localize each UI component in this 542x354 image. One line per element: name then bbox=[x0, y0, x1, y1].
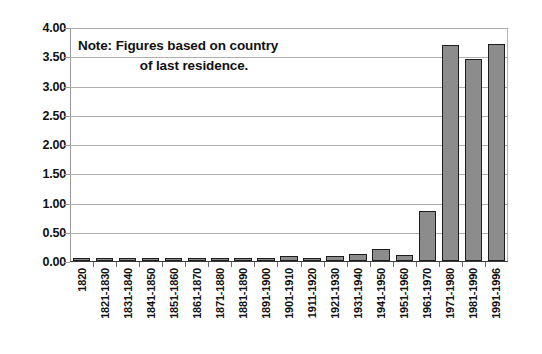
bar bbox=[142, 258, 160, 261]
x-tickmark bbox=[324, 262, 325, 267]
x-tickmark bbox=[185, 262, 186, 267]
x-tick-label: 1831-1840 bbox=[122, 268, 133, 319]
bar bbox=[326, 256, 344, 261]
x-label-slot: 1820 bbox=[70, 268, 93, 354]
bar bbox=[372, 249, 390, 261]
x-label-slot: 1921-1930 bbox=[324, 268, 347, 354]
x-tick-label: 1921-1930 bbox=[330, 268, 341, 319]
x-tick-label: 1841-1850 bbox=[145, 268, 156, 319]
y-tick-label: 2.00 bbox=[4, 139, 66, 152]
x-tickmark bbox=[462, 262, 463, 267]
bar bbox=[303, 258, 321, 262]
x-label-slot: 1871-1880 bbox=[208, 268, 231, 354]
x-tickmark bbox=[116, 262, 117, 267]
x-label-slot: 1981-1990 bbox=[462, 268, 485, 354]
x-tick-label: 1961-1970 bbox=[422, 268, 433, 319]
y-tick-label: 1.00 bbox=[4, 197, 66, 210]
x-tick-label: 1931-1940 bbox=[353, 268, 364, 319]
x-tickmark bbox=[439, 262, 440, 267]
x-label-slot: 1901-1910 bbox=[277, 268, 300, 354]
x-tickmark bbox=[416, 262, 417, 267]
x-tick-label: 1861-1870 bbox=[191, 268, 202, 319]
x-tick-label: 1821-1830 bbox=[99, 268, 110, 319]
y-tickmark bbox=[64, 262, 70, 263]
bar bbox=[165, 258, 183, 261]
x-tickmark bbox=[277, 262, 278, 267]
x-tickmark bbox=[301, 262, 302, 267]
chart-note-line-1: Note: Figures based on country bbox=[78, 36, 310, 56]
bar bbox=[73, 258, 91, 261]
x-label-slot: 1841-1850 bbox=[139, 268, 162, 354]
x-tick-label: 1851-1860 bbox=[168, 268, 179, 319]
bar bbox=[211, 258, 229, 261]
y-axis: 0.000.501.001.502.002.503.003.504.00 bbox=[0, 0, 66, 354]
x-tickmark bbox=[93, 262, 94, 267]
bar bbox=[488, 44, 506, 261]
y-tick-label: 1.50 bbox=[4, 168, 66, 181]
y-tick-label: 3.50 bbox=[4, 51, 66, 64]
x-tick-label: 1991-1996 bbox=[491, 268, 502, 319]
x-label-slot: 1851-1860 bbox=[162, 268, 185, 354]
x-label-slot: 1951-1960 bbox=[393, 268, 416, 354]
bar bbox=[234, 258, 252, 261]
bar bbox=[349, 254, 367, 261]
bar bbox=[96, 258, 114, 261]
x-tick-label: 1881-1890 bbox=[237, 268, 248, 319]
bar bbox=[465, 59, 483, 261]
x-tickmark bbox=[162, 262, 163, 267]
x-tickmark bbox=[254, 262, 255, 267]
x-label-slot: 1861-1870 bbox=[185, 268, 208, 354]
x-tick-label: 1871-1880 bbox=[214, 268, 225, 319]
bar bbox=[188, 258, 206, 261]
chart-note: Note: Figures based on country of last r… bbox=[78, 36, 310, 75]
y-tick-label: 2.50 bbox=[4, 110, 66, 123]
y-tick-label: 3.00 bbox=[4, 80, 66, 93]
chart-figure: 0.000.501.001.502.002.503.003.504.00 182… bbox=[0, 0, 542, 354]
x-axis: 18201821-18301831-18401841-18501851-1860… bbox=[70, 268, 508, 354]
y-tick-label: 4.00 bbox=[4, 22, 66, 35]
x-label-slot: 1891-1900 bbox=[254, 268, 277, 354]
x-tick-label: 1981-1990 bbox=[468, 268, 479, 319]
x-tickmark bbox=[485, 262, 486, 267]
x-label-slot: 1941-1950 bbox=[370, 268, 393, 354]
x-label-slot: 1971-1980 bbox=[439, 268, 462, 354]
x-label-slot: 1821-1830 bbox=[93, 268, 116, 354]
x-tick-label: 1901-1910 bbox=[283, 268, 294, 319]
x-tickmark bbox=[370, 262, 371, 267]
bar bbox=[257, 258, 275, 261]
x-tick-label: 1941-1950 bbox=[376, 268, 387, 319]
x-tick-label: 1911-1920 bbox=[307, 268, 318, 318]
x-tick-label: 1971-1980 bbox=[445, 268, 456, 319]
bar bbox=[442, 45, 460, 261]
x-label-slot: 1881-1890 bbox=[231, 268, 254, 354]
x-tickmark bbox=[347, 262, 348, 267]
x-label-slot: 1831-1840 bbox=[116, 268, 139, 354]
bar bbox=[419, 211, 437, 261]
bar bbox=[280, 256, 298, 261]
x-label-slot: 1991-1996 bbox=[485, 268, 508, 354]
x-label-slot: 1931-1940 bbox=[347, 268, 370, 354]
bar bbox=[396, 255, 414, 261]
x-tick-label: 1891-1900 bbox=[260, 268, 271, 319]
x-tickmark bbox=[393, 262, 394, 267]
x-label-slot: 1911-1920 bbox=[301, 268, 324, 354]
x-tick-label: 1820 bbox=[76, 268, 87, 292]
y-tick-label: 0.50 bbox=[4, 227, 66, 240]
x-label-slot: 1961-1970 bbox=[416, 268, 439, 354]
x-tickmark bbox=[208, 262, 209, 267]
bar bbox=[119, 258, 137, 261]
x-tickmark bbox=[139, 262, 140, 267]
chart-note-line-2: of last residence. bbox=[78, 56, 310, 76]
x-tick-label: 1951-1960 bbox=[399, 268, 410, 319]
x-tickmark bbox=[231, 262, 232, 267]
y-tick-label: 0.00 bbox=[4, 256, 66, 269]
